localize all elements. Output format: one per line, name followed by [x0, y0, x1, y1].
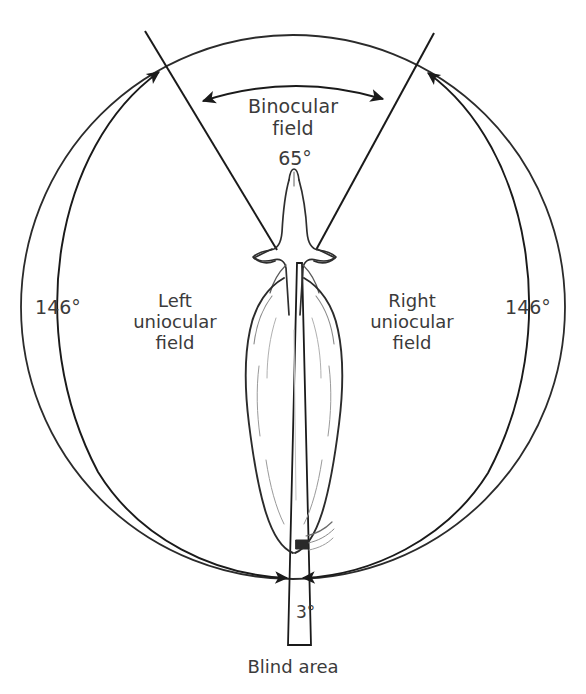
right-uniocular-angle-label: 146° — [488, 296, 568, 318]
animal-body-right — [295, 278, 342, 553]
animal-body-left — [246, 278, 293, 553]
blind-area-wedge — [288, 263, 311, 645]
animal-contour-2 — [316, 296, 334, 344]
binocular-ray-left — [145, 31, 277, 250]
animal-contour-3 — [257, 366, 260, 436]
animal-tail-mark — [296, 540, 308, 549]
animal-contour-1 — [254, 296, 272, 344]
binocular-field-label: Binocular field — [213, 95, 373, 139]
visual-field-diagram: Binocular field 65° 146° Left uniocular … — [0, 0, 586, 694]
right-uniocular-field-label: Right uniocular field — [358, 291, 466, 354]
left-uniocular-angle-label: 146° — [18, 296, 98, 318]
animal-contour-5 — [266, 460, 284, 524]
animal-contour-4 — [328, 366, 331, 436]
blind-angle-label: 3° — [296, 603, 330, 623]
animal-head — [253, 180, 289, 315]
binocular-ray-right — [316, 33, 434, 250]
left-uniocular-field-label: Left uniocular field — [121, 291, 229, 354]
animal-contour-7 — [267, 318, 276, 378]
blind-area-label: Blind area — [233, 657, 353, 678]
binocular-angle-label: 65° — [255, 147, 335, 169]
animal-contour-8 — [312, 318, 321, 378]
animal-rump-line-3 — [309, 538, 333, 550]
